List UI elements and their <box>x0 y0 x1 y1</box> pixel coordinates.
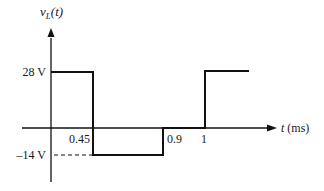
y-axis-arrow-icon <box>48 28 55 37</box>
x-axis-label: t (ms) <box>281 121 309 135</box>
x-tick-1: 1 <box>201 132 207 146</box>
x-tick-0-45: 0.45 <box>69 132 90 146</box>
y-tick-28v: 28 V <box>23 65 47 79</box>
y-axis-label: vL(t) <box>40 4 63 21</box>
x-tick-0-9: 0.9 <box>167 132 182 146</box>
x-axis-arrow-icon <box>267 125 277 132</box>
y-tick-minus14v: –14 V <box>16 148 47 162</box>
voltage-waveform-diagram: vL(t) 28 V –14 V 0.45 0.9 1 t (ms) <box>0 0 324 191</box>
